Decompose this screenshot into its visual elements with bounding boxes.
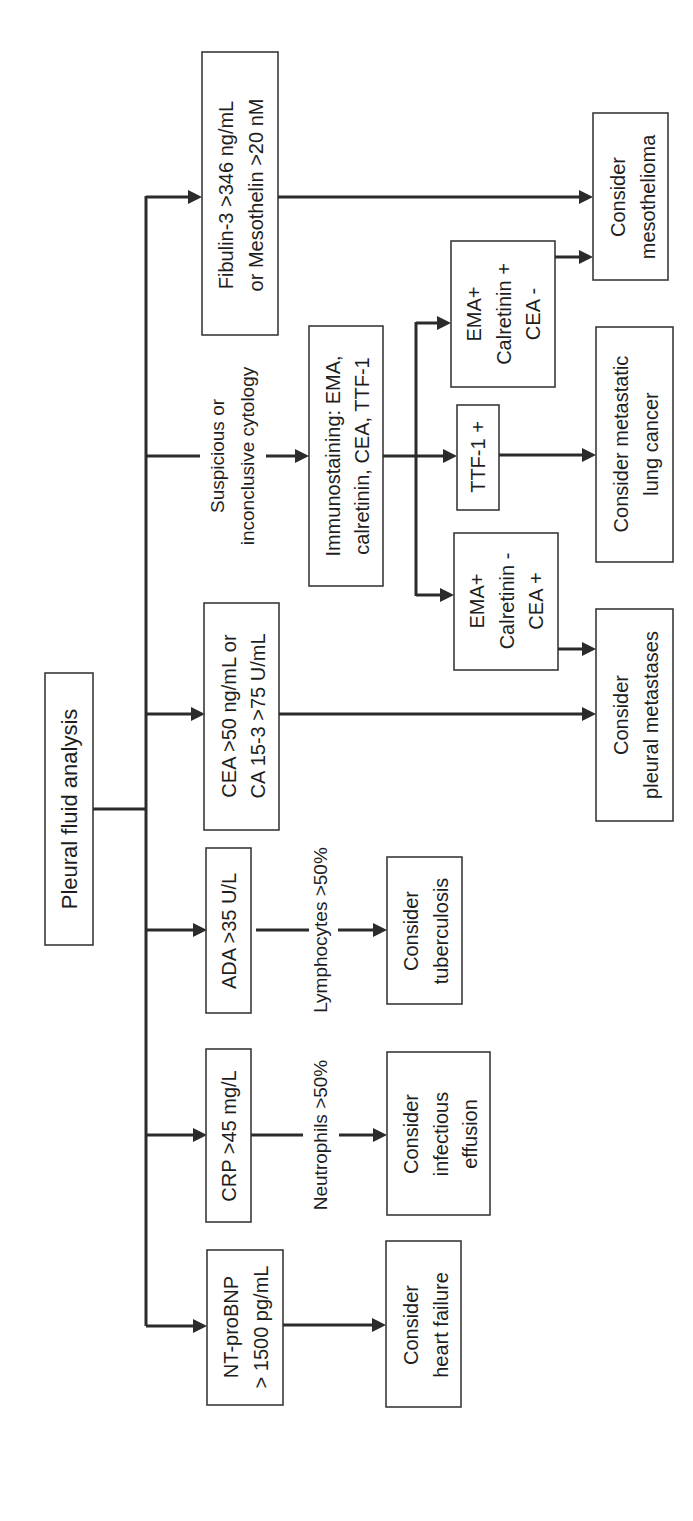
svg-text:CRP >45 mg/L: CRP >45 mg/L (218, 1070, 240, 1201)
outcome-metastatic-lung-cancer: Consider metastatic lung cancer (596, 327, 673, 562)
pleural-fluid-flowchart: Pleural fluid analysis NT-proBNP > 1500 … (0, 0, 693, 1521)
root-node: Pleural fluid analysis (45, 673, 93, 945)
edge-label-cytology-2: inconclusive cytology (237, 366, 258, 545)
svg-text:> 1500 pg/mL: > 1500 pg/mL (250, 1266, 272, 1389)
svg-text:TTF-1 +: TTF-1 + (467, 421, 489, 493)
svg-text:CEA -: CEA - (522, 288, 544, 340)
svg-text:Consider metastatic: Consider metastatic (610, 356, 632, 533)
test-ada: ADA >35 U/L (206, 848, 251, 1013)
outcome-tuberculosis: Consider tuberculosis (387, 857, 462, 1004)
immunostaining-node: Immunostaining: EMA, calretinin, CEA, TT… (309, 326, 383, 586)
svg-text:mesothelioma: mesothelioma (637, 134, 659, 259)
svg-text:infectious: infectious (430, 1092, 452, 1177)
svg-text:or Mesothelin >20 nM: or Mesothelin >20 nM (245, 99, 267, 292)
result-ema-calretinin-pos: EMA+ Calretinin + CEA - (451, 241, 555, 387)
edge-label-lymphocytes: Lymphocytes >50% (310, 847, 331, 1013)
svg-text:Fibulin-3 >346 ng/mL: Fibulin-3 >346 ng/mL (215, 101, 237, 289)
root-label: Pleural fluid analysis (57, 709, 82, 910)
svg-text:CA 15-3 >75 U/mL: CA 15-3 >75 U/mL (247, 633, 269, 798)
svg-text:EMA+: EMA+ (463, 286, 485, 341)
test-ntprobnp: NT-proBNP > 1500 pg/mL (207, 1250, 283, 1405)
svg-text:CEA +: CEA + (525, 572, 547, 629)
svg-text:lung cancer: lung cancer (640, 392, 662, 496)
result-ema-calretinin-neg: EMA+ Calretinin - CEA + (454, 533, 558, 670)
svg-text:NT-proBNP: NT-proBNP (220, 1276, 242, 1378)
svg-text:EMA+: EMA+ (466, 573, 488, 628)
svg-text:tuberculosis: tuberculosis (430, 878, 452, 985)
svg-text:CEA >50 ng/mL or: CEA >50 ng/mL or (218, 634, 240, 798)
svg-text:Calretinin +: Calretinin + (493, 263, 515, 365)
svg-text:Immunostaining: EMA,: Immunostaining: EMA, (322, 355, 344, 556)
test-cea-ca153: CEA >50 ng/mL or CA 15-3 >75 U/mL (204, 603, 279, 830)
svg-text:ADA >35 U/L: ADA >35 U/L (218, 873, 240, 989)
edge-label-neutrophils: Neutrophils >50% (310, 1060, 331, 1211)
outcome-infectious-effusion: Consider infectious effusion (387, 1052, 490, 1215)
svg-text:Consider: Consider (400, 1285, 422, 1365)
trunk-arrows (146, 190, 207, 1333)
svg-text:effusion: effusion (459, 1099, 481, 1169)
svg-text:pleural metastases: pleural metastases (640, 631, 662, 799)
svg-text:Consider: Consider (400, 891, 422, 971)
outcome-heart-failure: Consider heart failure (386, 1241, 461, 1407)
outcome-pleural-metastases: Consider pleural metastases (596, 609, 673, 821)
test-crp: CRP >45 mg/L (206, 1049, 251, 1222)
outcome-mesothelioma: Consider mesothelioma (593, 113, 668, 280)
edge-label-cytology-1: Suspicious or (207, 398, 228, 513)
svg-text:heart failure: heart failure (430, 1272, 452, 1378)
svg-text:Calretinin -: Calretinin - (496, 553, 518, 650)
result-ttf1-pos: TTF-1 + (457, 405, 499, 510)
svg-text:Consider: Consider (610, 675, 632, 755)
test-fibulin-mesothelin: Fibulin-3 >346 ng/mL or Mesothelin >20 n… (202, 52, 278, 335)
svg-text:calretinin, CEA, TTF-1: calretinin, CEA, TTF-1 (351, 357, 373, 554)
svg-text:Consider: Consider (400, 1094, 422, 1174)
svg-text:Consider: Consider (607, 157, 629, 237)
